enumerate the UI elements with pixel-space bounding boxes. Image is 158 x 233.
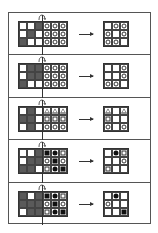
grid-cell — [27, 192, 35, 200]
grid-cell — [27, 64, 35, 72]
circle-icon — [45, 40, 50, 45]
circle-icon — [53, 66, 58, 71]
grid-cell — [59, 38, 67, 46]
grid-cell — [120, 30, 128, 38]
grid-cell — [112, 123, 120, 131]
square-icon — [61, 151, 66, 156]
grid-cell — [120, 107, 128, 115]
grid-cell — [27, 72, 35, 80]
grid-cell — [112, 149, 120, 157]
circle-icon — [106, 32, 111, 37]
circle-icon — [61, 32, 66, 37]
symbol-grid — [42, 63, 68, 89]
grid-cell — [27, 30, 35, 38]
fcircle-icon — [114, 151, 119, 156]
mask-grid — [18, 191, 44, 217]
circle-icon — [45, 82, 50, 87]
mask-grid — [18, 63, 44, 89]
grid-cell — [112, 64, 120, 72]
circle-icon — [53, 40, 58, 45]
grid-cell — [112, 38, 120, 46]
grid-cell — [27, 200, 35, 208]
circle-icon — [45, 66, 50, 71]
circle-icon — [53, 32, 58, 37]
circle-icon — [53, 124, 58, 129]
grid-cell — [43, 149, 51, 157]
grid-cell — [112, 30, 120, 38]
grid-cell — [43, 30, 51, 38]
mask-grid — [18, 106, 44, 132]
grid-cell — [51, 80, 59, 88]
grid-cell — [112, 192, 120, 200]
grid-cell — [43, 22, 51, 30]
grid-cell — [43, 107, 51, 115]
curved-fold-arrow-icon — [38, 141, 46, 147]
result-grid — [103, 106, 129, 132]
grid-cell — [112, 80, 120, 88]
circle-icon — [106, 124, 111, 129]
grid-cell — [104, 80, 112, 88]
right-arrow-icon — [79, 204, 93, 205]
grid-cell — [51, 157, 59, 165]
fold-line — [42, 15, 43, 55]
figure-frame — [8, 12, 151, 224]
square-icon — [61, 116, 66, 121]
circle-icon — [61, 124, 66, 129]
circle-icon — [106, 201, 111, 206]
grid-cell — [19, 200, 27, 208]
grid-cell — [51, 208, 59, 216]
grid-cell — [19, 192, 27, 200]
fcircle-icon — [114, 193, 119, 198]
grid-cell — [112, 22, 120, 30]
grid-cell — [43, 157, 51, 165]
grid-cell — [19, 30, 27, 38]
grid-cell — [19, 149, 27, 157]
curved-fold-arrow-icon — [38, 184, 46, 190]
right-arrow-icon — [79, 161, 93, 162]
grid-cell — [27, 22, 35, 30]
grid-cell — [104, 200, 112, 208]
grid-cell — [19, 72, 27, 80]
circle-icon — [61, 74, 66, 79]
fcircle-icon — [53, 209, 58, 214]
square-icon — [53, 116, 58, 121]
circle-icon — [122, 74, 127, 79]
grid-cell — [19, 80, 27, 88]
circle-icon — [122, 159, 127, 164]
result-grid — [103, 21, 129, 47]
grid-cell — [112, 165, 120, 173]
right-arrow-icon — [79, 119, 93, 120]
circle-icon — [53, 74, 58, 79]
grid-cell — [59, 30, 67, 38]
grid-cell — [43, 192, 51, 200]
grid-cell — [120, 72, 128, 80]
grid-cell — [43, 208, 51, 216]
grid-cell — [59, 123, 67, 131]
grid-cell — [43, 200, 51, 208]
circle-icon — [122, 66, 127, 71]
fsquare-icon — [61, 167, 66, 172]
grid-cell — [59, 192, 67, 200]
grid-cell — [43, 115, 51, 123]
circle-icon — [122, 32, 127, 37]
grid-cell — [112, 107, 120, 115]
circle-icon — [61, 159, 66, 164]
grid-cell — [27, 115, 35, 123]
grid-cell — [104, 107, 112, 115]
fsquare-icon — [53, 201, 58, 206]
grid-cell — [19, 22, 27, 30]
circle-icon — [45, 201, 50, 206]
square-icon — [45, 167, 50, 172]
grid-cell — [43, 165, 51, 173]
grid-cell — [104, 208, 112, 216]
grid-cell — [19, 38, 27, 46]
result-grid — [103, 63, 129, 89]
square-icon — [122, 151, 127, 156]
symbol-grid — [42, 106, 68, 132]
grid-cell — [59, 149, 67, 157]
grid-cell — [59, 72, 67, 80]
circle-icon — [114, 82, 119, 87]
circle-icon — [45, 24, 50, 29]
fcircle-icon — [53, 167, 58, 172]
grid-cell — [59, 157, 67, 165]
